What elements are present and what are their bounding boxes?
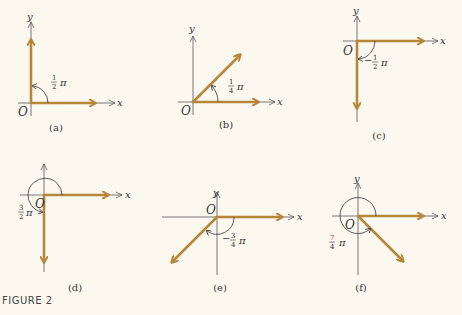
origin-label: O bbox=[206, 203, 216, 217]
origin-label: O bbox=[35, 197, 45, 211]
angle-arc bbox=[212, 86, 218, 102]
angle-denominator: 4 bbox=[229, 87, 234, 95]
panel-e: x y O − 3 4 π (e) bbox=[162, 187, 303, 293]
panel-label: (c) bbox=[372, 130, 386, 141]
angle-denominator: 2 bbox=[373, 63, 377, 71]
origin-label: O bbox=[345, 218, 355, 232]
pi-symbol: π bbox=[338, 237, 346, 248]
vector-terminal bbox=[358, 216, 403, 261]
y-label: y bbox=[26, 11, 33, 22]
panel-label: (d) bbox=[68, 282, 82, 293]
angle-arc bbox=[207, 217, 234, 234]
pi-symbol: π bbox=[59, 77, 67, 88]
panel-label: (f) bbox=[355, 282, 367, 293]
x-label: x bbox=[441, 210, 447, 221]
angle-denominator: 2 bbox=[52, 83, 56, 91]
pi-symbol: π bbox=[238, 235, 246, 246]
angle-arc bbox=[33, 86, 48, 103]
vector-terminal bbox=[172, 217, 217, 262]
angle-numerator: 3 bbox=[19, 204, 23, 212]
x-label: x bbox=[117, 97, 123, 108]
pi-symbol: π bbox=[25, 207, 33, 218]
y-label: y bbox=[212, 187, 219, 198]
panel-label: (b) bbox=[219, 119, 233, 130]
origin-label: O bbox=[18, 105, 28, 119]
y-label: y bbox=[353, 173, 360, 184]
y-label: y bbox=[352, 5, 359, 16]
origin-label: O bbox=[343, 44, 353, 58]
origin-label: O bbox=[181, 104, 191, 118]
panel-d: x O 3 2 π (d) bbox=[18, 164, 131, 293]
x-label: x bbox=[277, 96, 283, 107]
angle-numerator: 1 bbox=[52, 74, 56, 82]
x-label: x bbox=[440, 35, 446, 46]
panel-c: x y O − 1 2 π (c) bbox=[343, 5, 446, 141]
figure-caption: FIGURE 2 bbox=[2, 295, 53, 306]
minus-sign: − bbox=[364, 55, 372, 66]
angle-denominator: 4 bbox=[330, 243, 335, 251]
figure-canvas: x y O 1 2 π (a) x y O 1 4 π (b) x y O − … bbox=[0, 0, 462, 315]
angle-denominator: 4 bbox=[231, 241, 236, 249]
panel-label: (a) bbox=[49, 122, 63, 133]
panel-a: x y O 1 2 π (a) bbox=[18, 11, 123, 133]
pi-symbol: π bbox=[236, 81, 244, 92]
x-label: x bbox=[297, 211, 303, 222]
panel-b: x y O 1 4 π (b) bbox=[178, 23, 283, 130]
pi-symbol: π bbox=[380, 57, 388, 68]
angle-denominator: 2 bbox=[19, 213, 23, 221]
panel-label: (e) bbox=[213, 282, 227, 293]
angle-numerator: 3 bbox=[231, 232, 235, 240]
angle-numerator: 7 bbox=[330, 234, 334, 242]
x-label: x bbox=[125, 189, 131, 200]
angle-numerator: 1 bbox=[373, 54, 377, 62]
y-label: y bbox=[188, 23, 195, 34]
panel-f: x y O 7 4 π (f) bbox=[329, 173, 447, 293]
angle-numerator: 1 bbox=[229, 78, 233, 86]
minus-sign: − bbox=[222, 233, 230, 244]
